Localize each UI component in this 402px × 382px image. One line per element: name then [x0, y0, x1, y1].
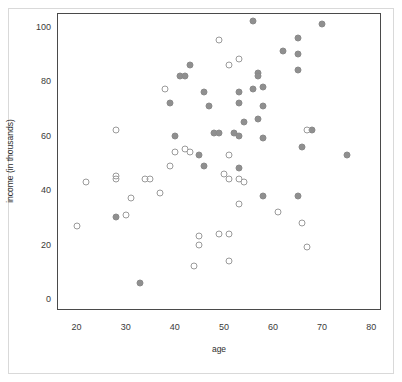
x-axis-tick-labels: 20304050607080 — [0, 0, 402, 382]
x-axis-title: age — [212, 344, 226, 354]
scatter-plot-figure: 020406080100 20304050607080 income (in t… — [0, 0, 402, 382]
x-tick-label: 40 — [170, 322, 180, 332]
x-tick-label: 20 — [72, 322, 82, 332]
x-tick-label: 60 — [268, 322, 278, 332]
x-tick-label: 50 — [219, 322, 229, 332]
x-tick-label: 30 — [121, 322, 131, 332]
x-tick-label: 80 — [366, 322, 376, 332]
x-tick-label: 70 — [317, 322, 327, 332]
y-axis-title: income (in thousands) — [5, 119, 15, 203]
